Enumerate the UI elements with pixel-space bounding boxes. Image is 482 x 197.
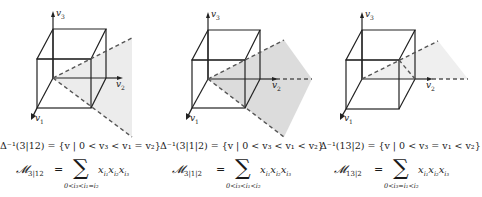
v3-label: v3	[56, 9, 65, 20]
sum-limits: 0<i₃<i₁<i₂	[226, 182, 261, 190]
v2-label: v2	[116, 80, 125, 91]
v2-label: v2	[272, 81, 281, 92]
monomial-formula: 𝓜3|12 = ∑ 0<i₃<i₁=i₂ xi₁xi₂xi₃	[0, 160, 160, 194]
sum-symbol: ∑	[235, 157, 251, 179]
sum-limits: 0<i₃<i₁=i₂	[64, 182, 99, 190]
monomial-formula: 𝓜13|2 = ∑ 0<i₃=i₁<i₂ xi₁xi₂xi₃	[320, 160, 480, 194]
monomial-formula: 𝓜3|1|2 = ∑ 0<i₃<i₁<i₂ xi₁xi₂xi₃	[160, 160, 320, 194]
v2-label: v2	[426, 81, 435, 92]
v1-label: v1	[344, 114, 353, 125]
summand: xi₁xi₂xi₃	[418, 164, 449, 178]
region-formula: Δ⁻¹(3|1|2) = {v | 0 < v₃ < v₁ < v₂}	[160, 140, 320, 151]
sum-symbol: ∑	[73, 157, 89, 179]
panel-13-2: v3 v2 v1 Δ⁻¹(13|2) = {v | 0 < v₃ = v₁ < …	[320, 0, 480, 197]
region-formula: Δ⁻¹(3|12) = {v | 0 < v₃ < v₁ = v₂}	[0, 140, 160, 151]
v3-label: v3	[365, 10, 374, 21]
sum-symbol: ∑	[393, 157, 409, 179]
summand: xi₁xi₂xi₃	[260, 164, 291, 178]
cube-diagram-3-1-2	[160, 0, 320, 140]
v1-label: v1	[35, 114, 44, 125]
cube-diagram-3-12	[0, 0, 160, 140]
summand: xi₁xi₂xi₃	[98, 164, 129, 178]
v1-label: v1	[190, 114, 199, 125]
v3-label: v3	[211, 10, 220, 21]
panel-3-12: v3 v2 v1 Δ⁻¹(3|12) = {v | 0 < v₃ < v₁ = …	[0, 0, 160, 197]
region-formula: Δ⁻¹(13|2) = {v | 0 < v₃ = v₁ < v₂}	[320, 140, 480, 151]
panel-3-1-2: v3 v2 v1 Δ⁻¹(3|1|2) = {v | 0 < v₃ < v₁ <…	[160, 0, 320, 197]
sum-limits: 0<i₃=i₁<i₂	[384, 182, 419, 190]
